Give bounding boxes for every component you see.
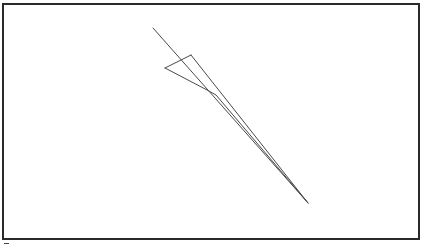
diagram-frame [3, 4, 419, 239]
diagram-canvas [0, 0, 421, 247]
corner-mark [4, 243, 9, 244]
